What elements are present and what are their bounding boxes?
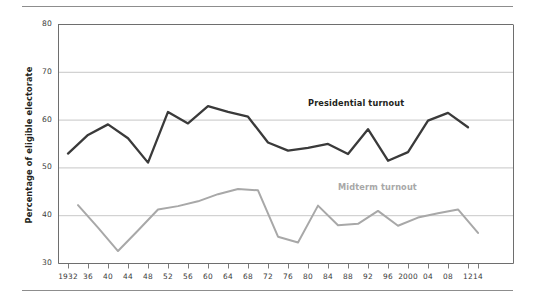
y-tick-label: 80 <box>26 19 52 28</box>
x-tick-label: 2000 <box>398 272 418 281</box>
series-annotation-label: Presidential turnout <box>308 98 404 108</box>
y-tick-label: 60 <box>26 115 52 124</box>
gridlines-group <box>58 25 513 264</box>
x-tick-label: 60 <box>203 272 213 281</box>
x-tick-label: 36 <box>83 272 93 281</box>
x-tick-label: 72 <box>263 272 273 281</box>
x-tick-marks-group <box>69 264 479 269</box>
x-tick-label: 80 <box>303 272 313 281</box>
y-tick-label: 70 <box>26 67 52 76</box>
x-tick-label: 88 <box>343 272 353 281</box>
plot-area: 304050607080 193236404448525660646872768… <box>0 0 535 300</box>
x-tick-label: 56 <box>183 272 193 281</box>
x-tick-label: 1932 <box>58 272 78 281</box>
x-tick-label: 44 <box>123 272 133 281</box>
series-annotation-label: Midterm turnout <box>338 182 417 192</box>
x-tick-label: 96 <box>383 272 393 281</box>
x-tick-label: 52 <box>163 272 173 281</box>
x-tick-label: 76 <box>283 272 293 281</box>
y-tick-label: 50 <box>26 162 52 171</box>
axis-frame-group <box>59 25 514 264</box>
x-tick-label: 64 <box>223 272 233 281</box>
x-tick-label: 48 <box>143 272 153 281</box>
series-lines-group <box>68 106 478 251</box>
x-tick-label: 92 <box>363 272 373 281</box>
x-tick-label: 14 <box>473 272 483 281</box>
x-tick-label: 68 <box>243 272 253 281</box>
x-tick-label: 84 <box>323 272 333 281</box>
x-tick-label: 12 <box>463 272 473 281</box>
x-tick-label: 40 <box>103 272 113 281</box>
x-tick-label: 04 <box>423 272 433 281</box>
series-line-midterm-turnout <box>78 189 478 251</box>
chart-figure: Percentage of eligible electorate 304050… <box>0 0 535 300</box>
x-tick-label: 08 <box>443 272 453 281</box>
y-tick-label: 40 <box>26 210 52 219</box>
y-tick-label: 30 <box>26 258 52 267</box>
chart-svg <box>0 0 535 300</box>
series-line-presidential-turnout <box>68 106 468 162</box>
